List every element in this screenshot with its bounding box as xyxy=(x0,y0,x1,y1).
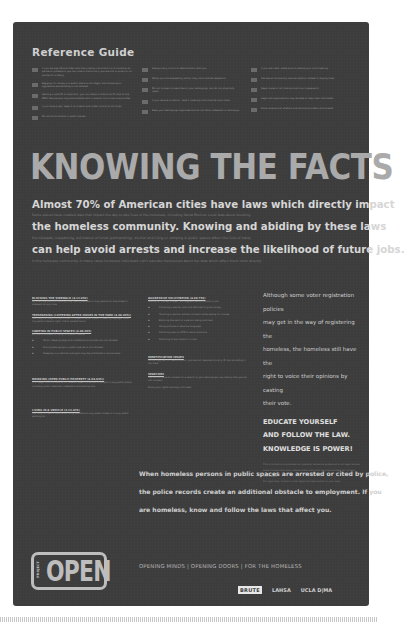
reference-item: Do not drink alcohol in public places. xyxy=(32,115,132,120)
bullet-icon xyxy=(32,83,38,87)
bullet-icon: ▪ xyxy=(148,325,154,328)
voting-column: Although some voter registration policie… xyxy=(263,289,363,485)
list-item: ▪Storing belongings in public spaces is … xyxy=(32,346,132,349)
voter-text: right to voice their opinions by casting xyxy=(263,370,363,397)
statement-line: the homeless community. Knowing and abid… xyxy=(32,221,386,233)
section-body: Know your rights and stay informed. xyxy=(148,386,250,389)
reference-item: When you are stopped by police, stay cal… xyxy=(142,77,242,82)
reference-item: If you receive a citation, read it caref… xyxy=(142,99,242,104)
voter-text: may get in the way of registering the xyxy=(263,316,363,343)
list-item: ▪Using profane or abusive language. xyxy=(148,325,250,328)
reference-column-3: If you are cited, make sure to attend yo… xyxy=(251,67,351,117)
bullet-icon: ▪ xyxy=(148,313,154,316)
bullet-icon xyxy=(251,68,257,72)
laws-column-left: BLOCKING THE SIDEWALK (4.12.050) No one … xyxy=(32,290,132,419)
partner-logos: BRUTE LAHSA UCLA D|MA xyxy=(238,586,332,594)
bullet-icon: ▪ xyxy=(148,331,154,334)
dotted-divider xyxy=(0,617,378,622)
section-body: Asking for money is legal, but aggressiv… xyxy=(148,300,250,303)
list-item: ▪Touching a person without consent while… xyxy=(148,313,250,316)
bullet-icon xyxy=(142,110,148,114)
arrest-statement: When homeless persons in public spaces a… xyxy=(139,470,364,524)
bullet-icon: ▪ xyxy=(148,338,154,341)
bullet-icon: ▪ xyxy=(148,319,154,322)
list-item: ▪Tents, sleeping bags and cardboard stru… xyxy=(32,339,132,342)
statement-line: Almost 70% of American cities have laws … xyxy=(32,199,395,211)
partner-ucla-dma: UCLA D|MA xyxy=(301,587,332,593)
reference-item: Getting a valid ID is important; you can… xyxy=(32,93,132,100)
partner-brute: BRUTE xyxy=(238,586,262,594)
bullet-icon: ▪ xyxy=(32,339,38,342)
bullet-icon xyxy=(32,116,38,120)
bullet-icon xyxy=(251,108,257,112)
tagline: OPENING MINDS | OPENING DOORS | FOR THE … xyxy=(139,563,302,569)
statement-line: can help avoid arrests and increase the … xyxy=(32,244,405,256)
bullet-icon xyxy=(142,100,148,104)
voter-text: Although some voter registration policie… xyxy=(263,289,363,316)
reference-item: Ask about community service options inst… xyxy=(251,77,351,82)
reference-column-2: Always carry a form of identification wi… xyxy=(142,67,242,119)
section-body: Police may ask for identification; you a… xyxy=(148,359,250,366)
bullet-icon: ▪ xyxy=(32,346,38,349)
reference-item: Know where local shelters and service pr… xyxy=(251,107,351,112)
bullet-icon: ▪ xyxy=(32,352,38,355)
bullet-icon: ▪ xyxy=(148,306,154,309)
statement-subline: in the homeless community. In many cases… xyxy=(32,259,262,263)
section-body: You may not use a vehicle as living quar… xyxy=(32,412,132,419)
voter-text: homeless, the homeless still have the xyxy=(263,343,363,370)
list-item: ▪Soliciting near an ATM or bank entrance… xyxy=(148,331,250,334)
bullet-icon xyxy=(142,88,148,92)
bullet-icon xyxy=(251,88,257,92)
reference-guide-title: Reference Guide xyxy=(32,46,135,58)
statement-subline: Some places have created laws that impac… xyxy=(32,213,250,217)
laws-column-middle: AGGRESSIVE SOLICITATION (4.08.750) Askin… xyxy=(148,290,250,390)
reference-item: Keep copies of all citations and court p… xyxy=(251,87,351,92)
reference-item: Keep your belongings organized and do no… xyxy=(142,109,242,114)
section-heading: TRESPASSING (LOITERING AFTER HOURS IN TH… xyxy=(32,313,132,317)
section-body: It is illegal to drink alcohol or have a… xyxy=(32,381,132,388)
section-body: No one is allowed to camp in a public sp… xyxy=(32,333,132,336)
reference-item: Begging for money in a public place is n… xyxy=(32,82,132,89)
reference-item: If you are cited, make sure to attend yo… xyxy=(251,67,351,72)
bullet-icon xyxy=(251,98,257,102)
bullet-icon xyxy=(142,68,148,72)
reference-column-1: If you are age 18 and older who has a fe… xyxy=(32,67,132,125)
section-body: No one may block or obstruct the free mo… xyxy=(32,300,132,307)
bullet-icon xyxy=(32,68,38,72)
list-item: ▪Sleeping in a vehicle overnight may be … xyxy=(32,352,132,355)
section-body: You may not stay in a park after it clos… xyxy=(32,317,132,324)
list-item: ▪Blocking the path of a person being sol… xyxy=(148,319,250,322)
reference-item: If you are age 18 and older who has a fe… xyxy=(32,67,132,77)
bullet-icon xyxy=(251,78,257,82)
partner-lahsa: LAHSA xyxy=(272,587,291,593)
statement-subline: the sidewalk, trespassing, solicitation … xyxy=(32,236,251,240)
logo-open-text: OPEN xyxy=(46,557,111,587)
reference-item: Always carry a form of identification wi… xyxy=(142,67,242,72)
headline: KNOWING THE FACTS xyxy=(30,147,393,187)
section-body: You do not have to consent to a search o… xyxy=(148,376,250,383)
bullet-icon xyxy=(32,94,38,98)
reference-item: Do not consent to searches of your belon… xyxy=(142,87,242,94)
voter-text: their vote. xyxy=(263,397,363,411)
list-item: ▪Soliciting at bus stops or in line. xyxy=(148,338,250,341)
project-open-logo: PROJECT OPEN xyxy=(31,552,107,590)
bullet-icon xyxy=(32,106,38,110)
bullet-icon xyxy=(142,78,148,82)
reference-item: If you have a pet, keep it on a leash an… xyxy=(32,105,132,110)
reference-item: Legal aid organizations may be able to h… xyxy=(251,97,351,102)
list-item: ▪Following a person who has declined to … xyxy=(148,306,250,309)
educate-heading: EDUCATE YOURSELF AND FOLLOW THE LAW. KNO… xyxy=(263,416,363,457)
logo-project-text: PROJECT xyxy=(36,561,40,578)
